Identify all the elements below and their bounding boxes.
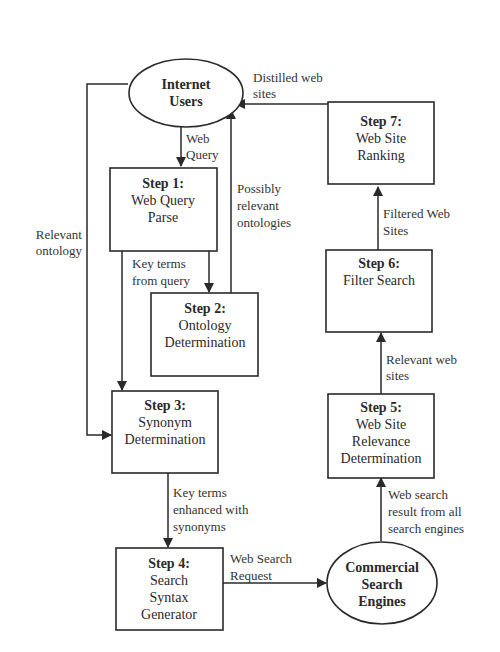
- edge-label-line: result from all: [388, 504, 462, 519]
- node-step-title: Step 5:: [360, 400, 402, 415]
- node-step7: Step 7: Web Site Ranking: [328, 102, 434, 184]
- edge-label-line: Request: [230, 568, 272, 583]
- node-step6: Step 6: Filter Search: [326, 250, 432, 332]
- edge-step6-to-step7: Filtered Web Sites: [378, 187, 450, 250]
- node-label-line: Relevance: [352, 434, 410, 449]
- node-label-line: Web Site: [356, 131, 407, 146]
- edge-label-line: Sites: [383, 223, 408, 238]
- node-label-line: Search: [362, 577, 403, 592]
- node-step-title: Step 3:: [144, 398, 186, 413]
- edge-label-line: sites: [386, 368, 409, 383]
- node-step1: Step 1: Web Query Parse: [110, 168, 217, 251]
- node-label-line: Engines: [358, 594, 406, 609]
- node-label-line: Synonym: [138, 415, 192, 430]
- node-step4: Step 4: Search Syntax Generator: [116, 548, 223, 630]
- edge-label-line: sites: [253, 86, 276, 101]
- node-label-line: Generator: [141, 607, 197, 622]
- node-step-title: Step 4:: [148, 556, 190, 571]
- node-label-line: Determination: [125, 432, 206, 447]
- node-label-line: Web Site: [356, 417, 407, 432]
- edge-label-line: Key terms: [173, 485, 227, 500]
- node-label-line: Commercial: [345, 560, 419, 575]
- node-step3: Step 3: Synonym Determination: [112, 391, 218, 473]
- edge-step7-to-users: Distilled web sites: [236, 70, 328, 104]
- edge-commercial-to-step5: Web search result from all search engine…: [381, 478, 464, 541]
- edge-label-line: search engines: [388, 521, 464, 536]
- edge-label-line: Web search: [388, 487, 448, 502]
- node-commercial-search-engines: Commercial Search Engines: [327, 542, 437, 624]
- node-label-line: Ranking: [357, 148, 404, 163]
- edge-step5-to-step6: Relevant web sites: [381, 333, 457, 394]
- node-label-line: Determination: [341, 451, 422, 466]
- node-label-line: Syntax: [150, 590, 189, 605]
- node-step-title: Step 7:: [360, 114, 402, 129]
- node-label-line: Web Query: [131, 193, 195, 208]
- edge-step2-to-users: Possibly relevant ontologies: [231, 110, 291, 293]
- edge-label-line: Relevant: [36, 227, 83, 242]
- edge-label-line: Relevant web: [386, 352, 457, 367]
- node-step-title: Step 6:: [358, 256, 400, 271]
- edge-label-line: ontology: [36, 243, 83, 258]
- node-label-line: Filter Search: [343, 273, 415, 288]
- node-step2: Step 2: Ontology Determination: [151, 293, 258, 376]
- edge-users-to-step1: Web Query: [181, 126, 219, 166]
- edge-users-to-step3: Relevant ontology: [36, 84, 128, 435]
- edge-label-line: relevant: [237, 198, 279, 213]
- node-label-line: Search: [150, 573, 188, 588]
- node-step-title: Step 1:: [142, 176, 184, 191]
- node-step-title: Step 2:: [184, 301, 226, 316]
- edge-label-line: enhanced with: [173, 502, 249, 517]
- edge-label-line: Distilled web: [253, 70, 323, 85]
- edge-step3-to-step4: Key terms enhanced with synonyms: [168, 473, 249, 547]
- node-label-line: Internet: [162, 77, 211, 92]
- edge-step4-to-commercial: Web Search Request: [223, 551, 326, 583]
- edge-label-line: Web Search: [230, 551, 293, 566]
- flow-diagram: Web Query Key terms from query Possibly …: [0, 0, 500, 652]
- edge-label-line: Query: [186, 147, 219, 162]
- edge-label-line: Key terms: [132, 256, 186, 271]
- edge-step1-to-step2: Key terms from query: [132, 251, 209, 292]
- edge-label-line: ontologies: [237, 215, 291, 230]
- edge-label-line: Web: [186, 131, 210, 146]
- edge-label-line: Filtered Web: [383, 206, 450, 221]
- edge-label-line: from query: [132, 273, 191, 288]
- edge-label-line: synonyms: [173, 519, 226, 534]
- node-label-line: Parse: [148, 210, 178, 225]
- node-step5: Step 5: Web Site Relevance Determination: [328, 394, 434, 478]
- node-label-line: Users: [169, 94, 203, 109]
- node-label-line: Determination: [165, 335, 246, 350]
- node-label-line: Ontology: [179, 318, 232, 333]
- edge-label-line: Possibly: [237, 181, 282, 196]
- node-internet-users: Internet Users: [129, 59, 243, 127]
